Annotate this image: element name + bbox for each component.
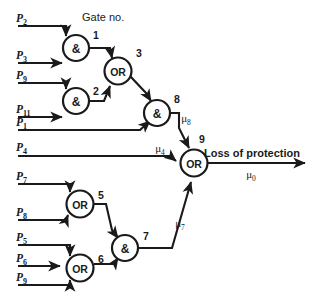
gate-1-number: 1 (93, 29, 99, 41)
rate-label-mu8: μ8 (181, 112, 191, 127)
input-label-p6: P6 (16, 252, 27, 267)
gate-7-type: & (121, 242, 130, 256)
gate-8-type: & (153, 107, 162, 121)
input-label-p7: P7 (16, 170, 27, 185)
gate-2-number: 2 (93, 85, 99, 97)
wire-p1-to-gate8 (18, 121, 150, 130)
gate-6-type: OR (72, 263, 88, 275)
wire-p7-to-gate5 (18, 184, 70, 192)
input-label-p3: P3 (16, 49, 27, 64)
wire-gate1-to-gate3 (89, 48, 112, 58)
gate-3-number: 3 (136, 47, 142, 59)
gate-9-type: OR (186, 158, 202, 170)
gate-6-number: 6 (98, 253, 104, 265)
input-label-p5: P5 (16, 231, 27, 246)
fault-tree-svg: & 1 & 2 OR 3 & 8 OR 9 (0, 0, 321, 305)
gate-5-type: OR (72, 199, 88, 211)
gate-9-number: 9 (199, 133, 205, 145)
input-label-p9-lower: P9 (16, 271, 27, 286)
gate-7[interactable]: & 7 (112, 230, 149, 261)
input-label-p8: P8 (16, 206, 27, 221)
rate-label-mu0: μ0 (246, 168, 256, 183)
gate-3-type: OR (110, 66, 126, 78)
wire-gate3-to-gate8 (130, 76, 151, 101)
gate-6[interactable]: OR 6 (67, 253, 105, 282)
gate-no-caption: Gate no. (82, 11, 124, 23)
gate-5-number: 5 (98, 189, 104, 201)
gate-1-type: & (72, 42, 81, 56)
rate-label-layer: μ8 μ4 μ7 μ0 (155, 112, 256, 232)
wire-p4-to-gate9 (18, 156, 176, 161)
input-label-p1: P1 (16, 116, 27, 131)
wire-p5-to-gate6 (18, 245, 70, 256)
loss-of-protection-label: Loss of protection (204, 147, 300, 159)
gate-8-number: 8 (174, 93, 180, 105)
input-label-p2: P2 (16, 12, 27, 27)
rate-label-mu4: μ4 (155, 142, 165, 157)
wire-gate5-to-gate7 (94, 204, 118, 238)
gate-2[interactable]: & 2 (63, 85, 99, 114)
input-label-p9-upper: P9 (16, 69, 27, 84)
input-label-p4: P4 (16, 141, 27, 156)
fault-tree-diagram: & 1 & 2 OR 3 & 8 OR 9 (0, 0, 321, 305)
gate-1[interactable]: & 1 (63, 29, 99, 61)
wire-p2-to-gate1 (18, 26, 66, 36)
gate-2-type: & (72, 95, 81, 109)
gate-7-number: 7 (143, 230, 149, 242)
